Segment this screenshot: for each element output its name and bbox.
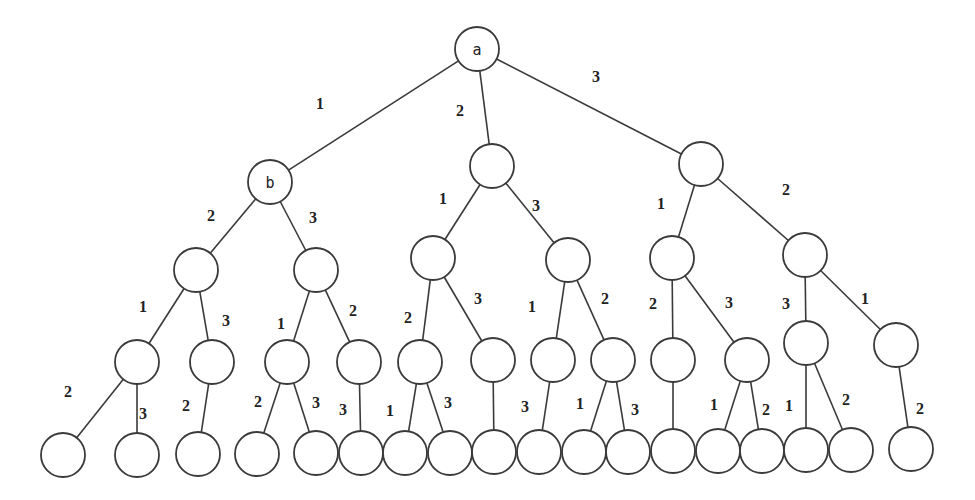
tree-edge: [444, 277, 482, 341]
tree-edge: [506, 183, 554, 243]
edge-label: 2: [649, 295, 657, 312]
tree-node: [783, 233, 827, 277]
node-circle: [562, 430, 606, 474]
tree-edge: [751, 382, 759, 430]
node-circle: [517, 430, 561, 474]
tree-diagram: 1232313121312231223312322331331312122 ab: [0, 0, 975, 500]
tree-node: [470, 144, 514, 188]
tree-node: [294, 248, 338, 292]
tree-edge: [718, 179, 789, 241]
edge-label: 3: [782, 295, 790, 312]
node-circle: [829, 428, 873, 472]
edge-label: 3: [521, 398, 529, 415]
edge-label: 2: [601, 290, 609, 307]
tree-node: [740, 429, 784, 473]
tree-node-a: a: [455, 27, 499, 71]
node-circle: [472, 430, 516, 474]
edge-label: 1: [710, 396, 718, 413]
tree-edge: [617, 382, 625, 431]
tree-node: [411, 236, 455, 280]
tree-node: [294, 431, 338, 475]
tree-node: [471, 338, 515, 382]
tree-node: [651, 429, 695, 473]
edge-label: 3: [532, 197, 540, 214]
node-circle: [725, 338, 769, 382]
tree-node: [428, 431, 472, 475]
node-circle: [428, 431, 472, 475]
edge-label: 2: [349, 302, 357, 319]
tree-node: [176, 432, 220, 476]
node-circle: [471, 338, 515, 382]
tree-edge: [77, 379, 124, 438]
edge-label: 2: [207, 207, 215, 224]
edge-label: 3: [339, 401, 347, 418]
tree-edge: [445, 185, 480, 240]
node-circle: [784, 428, 828, 472]
tree-edge: [423, 280, 431, 340]
tree-edge: [556, 282, 564, 338]
node-circle: [115, 340, 159, 384]
tree-node: [650, 236, 694, 280]
edge-label: 1: [277, 315, 285, 332]
node-circle: [294, 431, 338, 475]
tree-edge: [725, 381, 741, 430]
node-label: a: [472, 41, 481, 59]
edge-label: 1: [657, 195, 665, 212]
tree-node: [339, 431, 383, 475]
node-circle: [874, 323, 918, 367]
node-circle: [651, 429, 695, 473]
tree-edge: [542, 382, 549, 431]
tree-node: [591, 338, 635, 382]
tree-edge: [493, 382, 494, 430]
edge-label: 2: [762, 401, 770, 418]
edge-label: 3: [312, 394, 320, 411]
edge-label: 3: [444, 394, 452, 411]
tree-node: [889, 427, 933, 471]
edge-label: 2: [842, 391, 850, 408]
edge-label: 2: [254, 393, 262, 410]
node-circle: [411, 236, 455, 280]
node-circle: [650, 236, 694, 280]
tree-edge: [899, 367, 908, 427]
node-circle: [294, 248, 338, 292]
tree-edge: [577, 280, 604, 340]
tree-node: [562, 430, 606, 474]
edge-label: 1: [316, 95, 324, 112]
edge-label: 3: [631, 401, 639, 418]
nodes-layer: ab: [41, 27, 933, 477]
tree-edge: [210, 199, 256, 253]
tree-edge: [280, 202, 306, 251]
node-circle: [41, 433, 85, 477]
node-circle: [531, 338, 575, 382]
edge-label: 1: [386, 402, 394, 419]
node-circle: [651, 338, 695, 382]
edge-label: 1: [785, 397, 793, 414]
tree-node: [174, 248, 218, 292]
tree-node: [546, 238, 590, 282]
tree-edge: [149, 289, 184, 344]
node-circle: [679, 142, 723, 186]
tree-node: [531, 338, 575, 382]
tree-node: [472, 430, 516, 474]
tree-node: [337, 340, 381, 384]
tree-node: [606, 430, 650, 474]
tree-node: [235, 432, 279, 476]
tree-edge: [591, 381, 607, 431]
edge-label: 1: [576, 395, 584, 412]
tree-node: [651, 338, 695, 382]
tree-edge: [294, 291, 310, 341]
edge-label: 1: [439, 190, 447, 207]
node-circle: [265, 340, 309, 384]
edge-label: 1: [139, 298, 147, 315]
tree-edge: [360, 384, 361, 431]
tree-edge: [294, 383, 310, 432]
edge-label: 3: [725, 294, 733, 311]
edge-label: 3: [592, 68, 600, 85]
edge-label: 3: [309, 209, 317, 226]
tree-edge: [200, 292, 208, 341]
tree-node: [517, 430, 561, 474]
tree-node: [398, 340, 442, 384]
edge-label: 2: [782, 181, 790, 198]
tree-edge: [815, 363, 843, 429]
tree-edge: [480, 71, 489, 144]
